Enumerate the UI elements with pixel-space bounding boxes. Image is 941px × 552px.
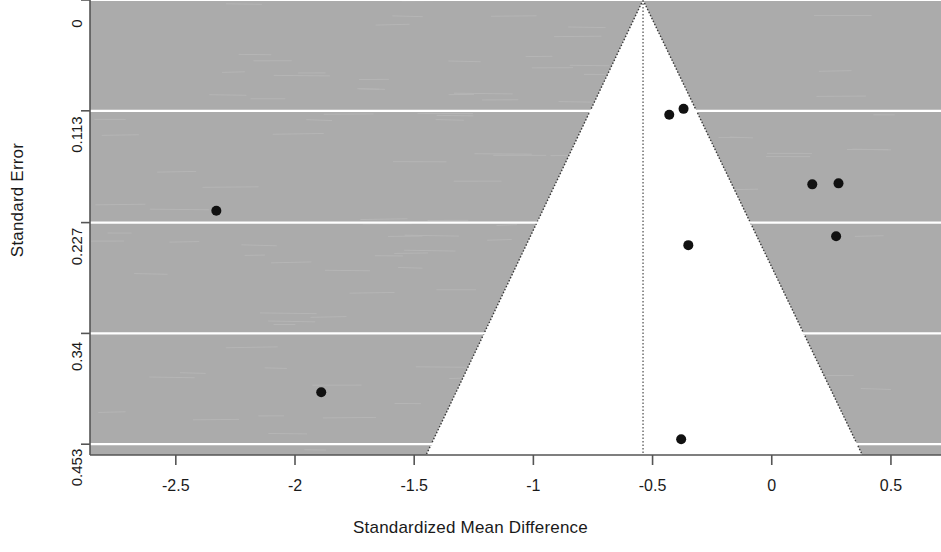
y-tick-label: 0.227: [68, 222, 85, 270]
data-point: [664, 110, 674, 120]
x-tick-label: -1.5: [400, 477, 428, 495]
x-tick-label: -2.5: [162, 477, 190, 495]
funnel-plot-figure: Standard Error Standardized Mean Differe…: [0, 0, 941, 552]
y-axis-title: Standard Error: [8, 70, 28, 330]
y-tick-label: 0.113: [68, 110, 85, 158]
data-point: [807, 179, 817, 189]
data-point: [833, 178, 843, 188]
x-tick-label: 0: [767, 477, 776, 495]
y-tick-label: 0.34: [68, 333, 85, 381]
x-tick-label: 0.5: [880, 477, 902, 495]
x-tick-label: -0.5: [639, 477, 667, 495]
data-point: [316, 387, 326, 397]
funnel-plot-canvas: [0, 0, 941, 552]
data-point: [831, 231, 841, 241]
data-point: [676, 434, 686, 444]
x-tick-label: -2: [288, 477, 302, 495]
data-point: [683, 240, 693, 250]
x-tick-label: -1: [526, 477, 540, 495]
y-tick-label: 0.453: [68, 444, 85, 492]
y-tick-label: 0: [68, 0, 85, 48]
x-axis-title: Standardized Mean Difference: [0, 518, 941, 538]
data-point: [679, 104, 689, 114]
data-point: [211, 206, 221, 216]
